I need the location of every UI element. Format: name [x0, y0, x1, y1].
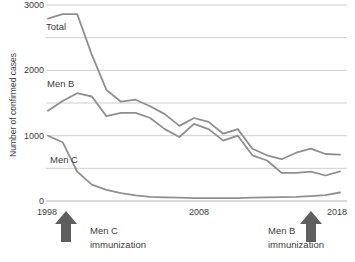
y-tick-0: 0 [14, 196, 44, 206]
series-label-men-c: Men C [50, 155, 78, 165]
men-c-immunization-annotation: Men C immunization [90, 224, 146, 251]
y-tick-1000: 1000 [14, 131, 44, 141]
x-tick-2018: 2018 [322, 207, 352, 217]
series-line-men-c [48, 136, 340, 198]
chart: Number of confirmed cases 3000 2000 1000… [0, 0, 355, 262]
series-label-total: Total [46, 22, 66, 32]
series-label-men-b: Men B [47, 79, 74, 89]
y-axis-title: Number of confirmed cases [8, 29, 20, 181]
annotation-line: Men B [268, 224, 324, 238]
annotation-line: Men C [90, 224, 146, 238]
men-c-immunization-arrow-icon [55, 211, 77, 242]
x-tick-2008: 2008 [184, 207, 214, 217]
y-tick-3000: 3000 [14, 0, 44, 10]
annotation-line: immunization [90, 238, 146, 252]
men-b-immunization-annotation: Men B immunization [268, 224, 324, 251]
series-line-total [48, 14, 340, 159]
y-tick-2000: 2000 [14, 65, 44, 75]
annotation-line: immunization [268, 238, 324, 252]
series-line-men-b [48, 93, 340, 175]
